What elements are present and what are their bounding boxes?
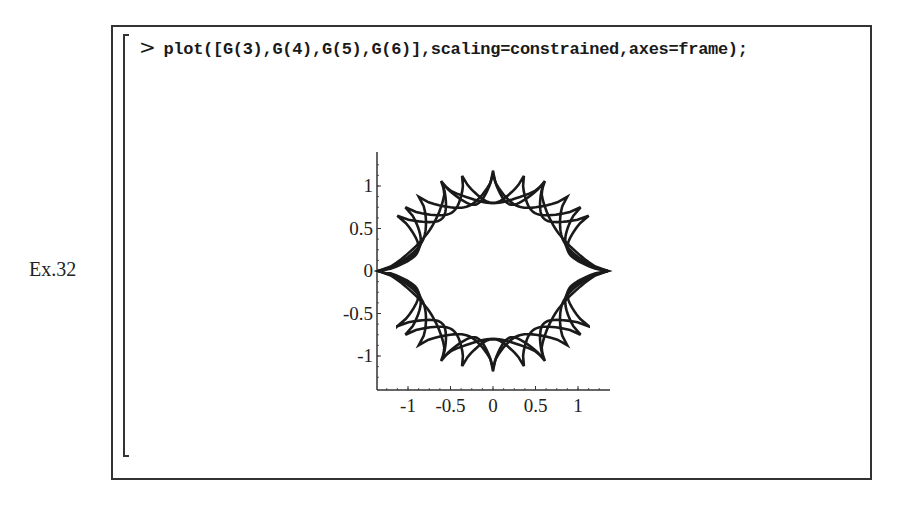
x-tick-label: -1 [400,395,416,416]
y-tick-label: -0.5 [343,303,373,324]
y-tick-label: -1 [357,345,373,366]
curve-g6 [378,171,608,372]
y-tick-label: 0 [364,260,374,281]
y-tick-label: 0.5 [349,218,373,239]
curve-g5 [378,176,608,366]
y-tick-label: 1 [364,175,374,196]
plot-curves [378,171,608,372]
plot-output: -1-0.500.51-1-0.500.51 [0,0,901,508]
x-tick-label: 0.5 [524,395,548,416]
axis-ticks: -1-0.500.51-1-0.500.51 [343,165,599,416]
plot-frame [377,152,610,390]
x-tick-label: 0 [488,395,498,416]
x-tick-label: 1 [573,395,583,416]
x-tick-label: -0.5 [435,395,465,416]
